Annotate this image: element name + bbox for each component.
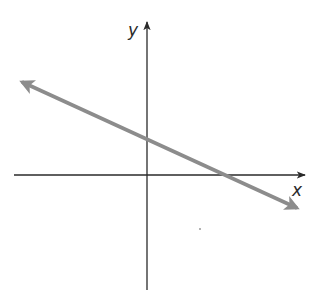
plotted-line [22,82,297,208]
coordinate-plane: y x [0,0,324,300]
x-axis-label: x [291,180,303,200]
scan-speck [199,228,201,230]
y-axis-label: y [127,20,139,40]
